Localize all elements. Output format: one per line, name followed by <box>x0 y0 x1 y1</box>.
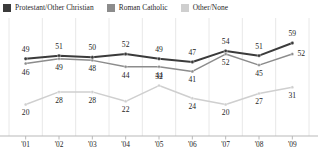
plot-svg <box>0 18 318 157</box>
data-point <box>158 65 161 68</box>
plot-area: 4951505249475451594649484444415245522028… <box>0 18 318 157</box>
data-point <box>91 90 94 93</box>
data-point <box>91 59 94 62</box>
data-point <box>291 86 294 89</box>
line-chart: Protestant/Other Christian Roman Catholi… <box>0 0 318 157</box>
data-point <box>91 56 94 59</box>
legend-swatch-other-icon <box>181 4 189 12</box>
data-point <box>158 84 161 87</box>
x-axis-tick-label: '07 <box>221 141 230 149</box>
data-point <box>124 52 127 55</box>
x-axis-tick-label: '09 <box>288 141 297 149</box>
legend-item-catholic: Roman Catholic <box>107 4 168 12</box>
data-point <box>58 90 61 93</box>
legend-swatch-catholic-icon <box>107 4 115 12</box>
x-axis-tick-label: '06 <box>188 141 197 149</box>
x-axis-tick-label: '04 <box>121 141 130 149</box>
legend-label-other: Other/None <box>193 4 228 12</box>
legend-item-other: Other/None <box>181 4 228 12</box>
data-point <box>291 41 294 44</box>
chart-legend: Protestant/Other Christian Roman Catholi… <box>0 0 318 16</box>
data-point <box>258 64 261 67</box>
data-point <box>124 65 127 68</box>
data-point <box>224 49 227 52</box>
data-point <box>224 103 227 106</box>
legend-label-catholic: Roman Catholic <box>119 4 168 12</box>
data-point <box>258 92 261 95</box>
x-axis-tick-label: '05 <box>155 141 164 149</box>
data-point <box>191 60 194 63</box>
x-axis-tick-label: '01 <box>21 141 30 149</box>
data-point <box>224 53 227 56</box>
data-point <box>24 57 27 60</box>
legend-swatch-protestant-icon <box>3 4 11 12</box>
data-point <box>191 97 194 100</box>
x-axis-tick-label: '02 <box>55 141 64 149</box>
legend-label-protestant: Protestant/Other Christian <box>15 4 94 12</box>
data-point <box>124 100 127 103</box>
series-line-2 <box>26 86 293 105</box>
data-point <box>257 54 260 57</box>
x-axis-tick-label: '03 <box>88 141 97 149</box>
data-point <box>58 57 61 60</box>
data-point <box>24 62 27 65</box>
data-point <box>157 57 160 60</box>
data-point <box>291 53 294 56</box>
x-axis-tick-label: '08 <box>255 141 264 149</box>
data-point <box>57 54 60 57</box>
data-point <box>24 103 27 106</box>
legend-item-protestant: Protestant/Other Christian <box>3 4 94 12</box>
data-point <box>191 70 194 73</box>
